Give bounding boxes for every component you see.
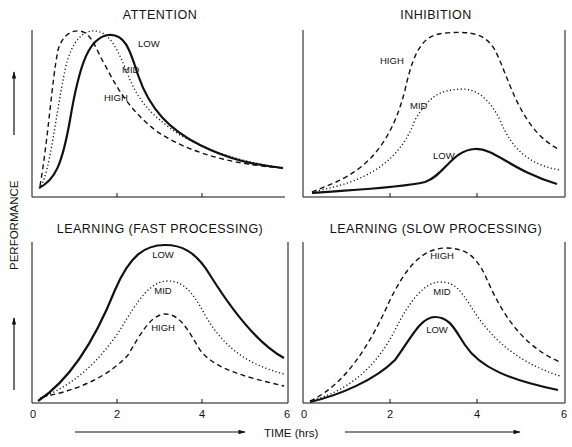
series-label-mid: MID (433, 286, 451, 297)
series-label-low: LOW (138, 38, 160, 49)
series-label-high: HIGH (151, 322, 175, 333)
x-tick-2: 2 (114, 408, 120, 420)
figure-canvas: PERFORMANCE TIME (hrs) ATTENTION LOW MID… (0, 0, 572, 447)
series-high-line (312, 32, 560, 192)
series-label-high: HIGH (430, 250, 454, 261)
x-axis-label: TIME (hrs) (264, 427, 318, 439)
plot-frame (303, 242, 565, 403)
y-axis-label-group: PERFORMANCE (8, 72, 20, 390)
panel-learning-fast: LEARNING (FAST PROCESSING) LOW MID HIGH … (30, 222, 290, 420)
x-tick-4: 4 (199, 408, 205, 420)
series-label-low: LOW (152, 249, 174, 260)
x-tick-2: 2 (387, 408, 393, 420)
series-mid-line (310, 282, 560, 401)
panel-title: LEARNING (SLOW PROCESSING) (330, 222, 542, 236)
x-tick-4: 4 (474, 408, 480, 420)
series-label-mid: MID (154, 285, 172, 296)
panel-title: INHIBITION (400, 8, 472, 22)
series-low-line (39, 35, 283, 188)
series-label-high: HIGH (104, 92, 128, 103)
panel-learning-slow: LEARNING (SLOW PROCESSING) HIGH MID LOW … (301, 222, 567, 420)
panel-attention: ATTENTION LOW MID HIGH (32, 8, 285, 197)
x-axis-label-group: TIME (hrs) (75, 427, 520, 439)
x-tick-6: 6 (561, 408, 567, 420)
series-mid-line (40, 281, 284, 398)
panel-title: ATTENTION (123, 8, 197, 22)
x-tick-6: 6 (284, 408, 290, 420)
series-label-low: LOW (426, 324, 448, 335)
y-axis-label: PERFORMANCE (8, 180, 20, 270)
series-label-low: LOW (433, 150, 455, 161)
x-tick-0: 0 (301, 408, 307, 420)
panel-title: LEARNING (FAST PROCESSING) (57, 222, 264, 236)
series-label-mid: MID (122, 64, 140, 75)
series-label-mid: MID (410, 100, 428, 111)
x-tick-0: 0 (30, 408, 36, 420)
panel-inhibition: INHIBITION HIGH MID LOW (303, 8, 565, 197)
series-label-high: HIGH (380, 55, 404, 66)
